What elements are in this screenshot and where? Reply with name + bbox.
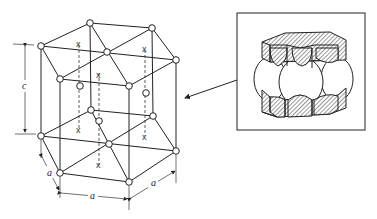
hcp-diagram: x x x x x x [0, 0, 377, 219]
label-c: c [22, 80, 27, 91]
unit-cell: x x x x x x [38, 20, 180, 186]
label-a-right: a [151, 177, 156, 188]
dimension-a-front: a [61, 186, 129, 210]
x-marker: x [142, 44, 147, 54]
x-marker: x [76, 39, 81, 49]
x-marker: x [96, 70, 101, 80]
x-marker: x [96, 160, 101, 170]
x-marker: x [76, 125, 81, 135]
dimension-c: c [13, 44, 36, 134]
vertical-edges [41, 23, 176, 182]
lattice-atoms [38, 20, 180, 186]
x-marker: x [142, 132, 147, 142]
label-a-front: a [90, 190, 95, 201]
pointer-arrow [185, 80, 237, 98]
label-a-left: a [47, 167, 52, 178]
dimension-a-left: a [41, 140, 60, 198]
middle-layer-atoms [77, 83, 150, 125]
inset-sphere-model [237, 13, 365, 130]
